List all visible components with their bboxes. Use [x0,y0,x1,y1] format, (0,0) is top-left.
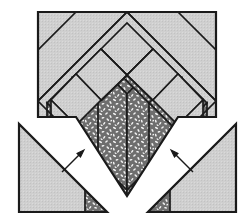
right-insertion-arrow [171,150,193,172]
left-insertion-arrow [62,150,84,172]
figure-root [0,0,251,222]
pattern-diagram [0,0,251,222]
